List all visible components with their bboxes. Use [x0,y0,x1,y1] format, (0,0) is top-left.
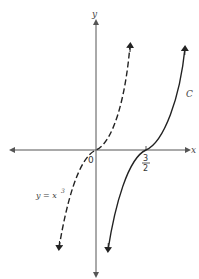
tick-label-three-halves: 3 2 [142,154,150,173]
origin-label: 0 [88,155,94,165]
curve-y-equals-x-cubed-label: y = x 3 [35,187,65,200]
svg-text:3: 3 [61,187,65,194]
svg-text:3: 3 [143,154,148,163]
dashed-curve-bottom-arrow [59,241,60,248]
curve-c [108,48,185,250]
y-axis-label: y [91,9,98,19]
curve-c-label: C [186,89,193,99]
svg-text:2: 2 [143,164,148,173]
svg-text:y = x: y = x [35,191,57,200]
x-axis-label: x [191,145,196,155]
graph-canvas: y x 0 3 2 C y = x 3 [0,0,199,279]
curve-y-equals-x-cubed [59,45,130,248]
